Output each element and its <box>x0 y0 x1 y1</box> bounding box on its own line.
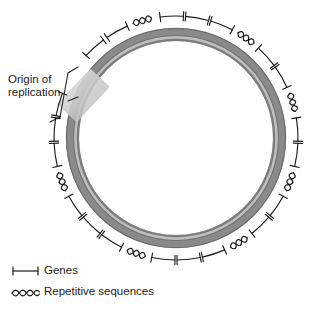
ring-inner-highlight <box>75 37 276 238</box>
gene-marker <box>290 143 302 167</box>
origin-label-line2: replication <box>8 86 60 98</box>
gene-marker <box>209 17 234 34</box>
gene-marker <box>292 117 303 141</box>
gene-marker <box>177 253 201 265</box>
gene-marker <box>83 36 107 58</box>
gene-marker <box>267 194 288 219</box>
chromosome-diagram: Origin ofreplication Genes Repetitive se… <box>0 0 329 319</box>
repetitive-sequence-marker <box>229 235 248 250</box>
legend-item-repeats-label: Repetitive sequences <box>44 285 154 298</box>
gene-marker <box>151 253 175 265</box>
feature-markers-layer <box>49 12 302 265</box>
gene-marker <box>159 12 183 22</box>
chromosome-ring <box>66 28 285 247</box>
gene-marker <box>104 22 129 41</box>
ring-inner-edge <box>79 41 274 236</box>
gene-marker <box>49 117 60 141</box>
repetitive-sequence-marker <box>126 247 146 259</box>
gene-marker <box>99 231 124 251</box>
gene-marker <box>201 246 226 262</box>
ring-band <box>73 35 280 242</box>
repetitive-sequence-marker <box>284 172 297 192</box>
gene-marker <box>255 45 277 69</box>
repetitive-sequence-marker <box>287 92 298 112</box>
repetitive-sequence-marker <box>56 172 69 192</box>
repetitive-sequence-marker <box>236 30 255 46</box>
legend-repeat-symbol <box>12 290 39 296</box>
legend <box>12 267 39 296</box>
gene-marker <box>249 214 272 237</box>
repetitive-sequence-marker <box>132 15 152 26</box>
gene-marker <box>50 143 62 167</box>
gene-marker <box>65 194 86 219</box>
legend-gene-symbol <box>13 267 38 276</box>
gene-marker <box>272 64 292 89</box>
gene-marker <box>185 12 210 25</box>
gene-marker <box>80 214 103 237</box>
legend-item-genes-label: Genes <box>44 264 78 277</box>
origin-label-line1: Origin of <box>8 73 51 85</box>
origin-of-replication-label: Origin ofreplication <box>8 73 80 99</box>
